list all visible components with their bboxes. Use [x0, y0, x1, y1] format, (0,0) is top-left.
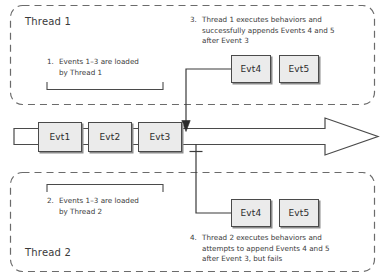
- diagram-canvas: Thread 1 1. Events 1–3 are loaded by Thr…: [0, 0, 383, 278]
- stream-event-box-evt1-label: Evt1: [49, 132, 70, 142]
- thread1-note-load-line-1: Events 1–3 are loaded: [59, 57, 139, 68]
- thread2-note-load-number: 2.: [47, 196, 54, 207]
- stream-event-box-evt2-label: Evt2: [99, 132, 120, 142]
- stream-event-box-evt2[interactable]: Evt2: [88, 122, 132, 152]
- stream-event-box-evt3-label: Evt3: [149, 132, 170, 142]
- thread1-note-append-line-3: after Event 3: [202, 36, 335, 47]
- thread2-note-load-line-2: by Thread 2: [59, 207, 139, 218]
- thread1-event-box-evt4[interactable]: Evt4: [231, 55, 271, 83]
- thread1-note-load-line-2: by Thread 1: [59, 68, 139, 79]
- thread2-label: Thread 2: [25, 247, 71, 258]
- thread2-event-box-evt4[interactable]: Evt4: [231, 199, 271, 227]
- thread1-load-bracket: [47, 82, 163, 90]
- thread1-note-append-number: 3.: [190, 15, 197, 26]
- thread2-load-bracket: [47, 185, 163, 193]
- thread1-note-append-line-1: Thread 1 executes behaviors and: [202, 15, 335, 26]
- thread1-note-load: 1. Events 1–3 are loaded by Thread 1: [47, 57, 139, 78]
- thread2-note-load: 2. Events 1–3 are loaded by Thread 2: [47, 196, 139, 217]
- thread2-note-append-line-3: after Event 3, but fails: [202, 254, 330, 265]
- thread1-label: Thread 1: [25, 16, 71, 27]
- thread1-note-append-line-2: successfully appends Events 4 and 5: [202, 26, 335, 37]
- thread1-event-box-evt4-label: Evt4: [240, 64, 261, 74]
- thread1-note-append: 3. Thread 1 executes behaviors and succe…: [190, 15, 335, 47]
- thread2-note-append: 4. Thread 2 executes behaviors and attem…: [190, 233, 330, 265]
- thread1-append-connector: [186, 69, 231, 122]
- thread2-note-load-line-1: Events 1–3 are loaded: [59, 196, 139, 207]
- stream-event-box-evt1[interactable]: Evt1: [38, 122, 82, 152]
- thread1-event-box-evt5[interactable]: Evt5: [279, 55, 319, 83]
- thread2-note-append-line-1: Thread 2 executes behaviors and: [202, 233, 330, 244]
- thread1-note-load-number: 1.: [47, 57, 54, 68]
- thread2-event-box-evt5[interactable]: Evt5: [279, 199, 319, 227]
- thread2-event-box-evt5-label: Evt5: [288, 208, 309, 218]
- thread2-note-append-line-2: attempts to append Events 4 and 5: [202, 244, 330, 255]
- thread1-event-box-evt5-label: Evt5: [288, 64, 309, 74]
- thread2-append-connector: [196, 144, 231, 213]
- stream-event-box-evt3[interactable]: Evt3: [138, 122, 182, 152]
- thread2-note-append-number: 4.: [190, 233, 197, 244]
- thread2-event-box-evt4-label: Evt4: [240, 208, 261, 218]
